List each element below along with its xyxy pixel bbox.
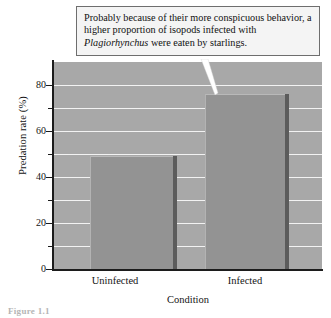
bar-infected[interactable] [205,94,289,269]
y-axis-label: Predation rate (%) [17,66,28,206]
bar-infected-face [205,94,285,269]
figure-container: 0 20 40 60 80 Predation rate (%) Uninfec… [0,0,331,318]
callout-line3-pre: with [238,24,256,35]
y-tick-70 [48,108,53,109]
bar-infected-shadow [285,94,289,269]
annotation-callout: Probably because of their more conspicuo… [76,6,320,56]
x-axis-label: Condition [54,294,322,305]
annotation-callout-text: Probably because of their more conspicuo… [84,12,312,49]
x-tick-label-infected: Infected [190,275,300,286]
y-tick-30 [48,200,53,201]
y-axis-line [52,60,54,271]
y-tick-50 [48,154,53,155]
callout-line3-post: were eaten by starlings. [148,37,247,48]
callout-line1: Probably because of their more conspicuo… [84,12,264,23]
y-tick-0 [46,269,53,270]
callout-leader-line [196,59,236,95]
figure-caption: Figure 1.1 [8,306,50,316]
y-tick-10 [48,246,53,247]
y-tick-20 [46,223,53,224]
callout-species-name: Plagiorhynchus [84,37,148,48]
y-tick-60 [46,131,53,132]
gridline-80 [54,85,322,86]
x-tick-label-uninfected: Uninfected [60,275,170,286]
plot-area [54,62,322,269]
y-tick-40 [46,177,53,178]
bar-uninfected-shadow [173,156,177,269]
y-tick-80 [46,85,53,86]
y-tick-label-20: 20 [22,218,46,228]
bar-uninfected-face [90,156,173,269]
y-tick-label-0: 0 [22,264,46,274]
bar-uninfected[interactable] [90,156,177,269]
x-axis-line [52,269,323,271]
